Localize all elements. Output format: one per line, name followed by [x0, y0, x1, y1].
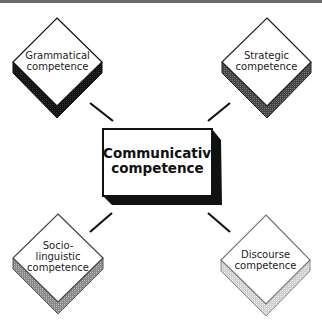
connector-grammatical: [90, 103, 113, 121]
connector-discourse: [208, 213, 230, 232]
label-line: competence: [221, 260, 310, 271]
label-line: Strategic: [222, 50, 311, 61]
center-label-line2: competence: [103, 161, 212, 176]
discourse-label: Discourse competence: [221, 249, 310, 271]
strategic-label: Strategic competence: [222, 50, 311, 72]
label-line: Grammatical: [13, 50, 102, 61]
label-line: linguistic: [13, 251, 103, 262]
label-line: competence: [222, 61, 311, 72]
connector-sociolinguistic: [90, 213, 112, 232]
center-label-line1: Communicative: [103, 146, 212, 161]
label-line: competence: [13, 61, 102, 72]
connector-strategic: [208, 103, 230, 121]
label-line: competence: [13, 262, 103, 273]
grammatical-label: Grammatical competence: [13, 50, 102, 72]
center-label: Communicative competence: [103, 146, 212, 176]
label-line: Discourse: [221, 249, 310, 260]
label-line: Socio-: [13, 240, 103, 251]
sociolinguistic-label: Socio- linguistic competence: [13, 240, 103, 273]
